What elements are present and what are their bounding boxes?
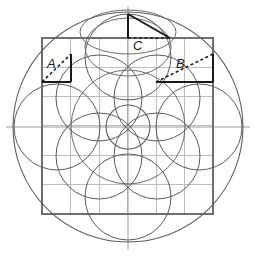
geometry-canvas: A B C [0,0,256,256]
triangle-b-label: B [176,56,185,71]
triangle-c-label: C [133,38,143,53]
geometry-diagram: A B C [0,0,256,256]
triangle-a-label: A [46,56,56,71]
